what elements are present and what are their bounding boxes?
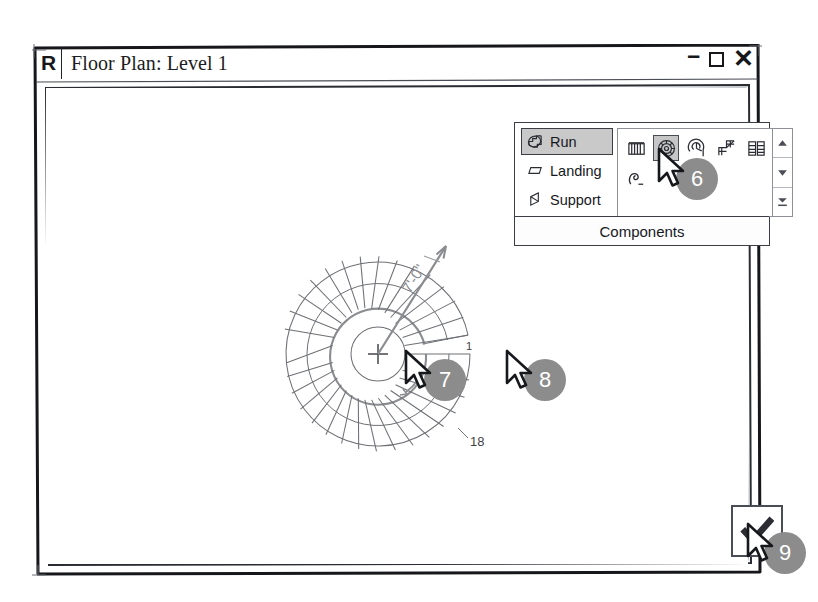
scroll-up-icon bbox=[776, 137, 789, 150]
center-ends-spiral-icon bbox=[686, 138, 707, 159]
gallery-show-more-button[interactable] bbox=[773, 188, 792, 216]
first-tread-label: 1 bbox=[466, 340, 472, 352]
stringer-support-icon bbox=[526, 191, 545, 208]
stair-run-icon bbox=[526, 133, 545, 150]
gallery-scrollbar[interactable] bbox=[773, 128, 793, 217]
gallery-item-l-shape-winder[interactable] bbox=[713, 135, 739, 161]
gallery-item-create-sketch-run[interactable] bbox=[623, 165, 649, 191]
ribbon-body: Run Landing bbox=[515, 123, 769, 217]
app-logo-icon[interactable]: R bbox=[36, 47, 62, 79]
ribbon-button-landing-label: Landing bbox=[550, 163, 602, 179]
gallery-item-full-step-spiral[interactable] bbox=[653, 135, 679, 161]
ribbon-button-run-label: Run bbox=[550, 134, 577, 150]
minimize-icon[interactable]: – bbox=[687, 44, 700, 67]
create-sketch-run-icon bbox=[626, 168, 647, 189]
window-controls: – ✕ bbox=[687, 47, 754, 72]
components-ribbon-panel: Run Landing bbox=[514, 122, 770, 246]
u-shape-winder-icon bbox=[746, 138, 767, 159]
ribbon-button-support[interactable]: Support bbox=[521, 186, 613, 213]
callout-badge-8: 8 bbox=[524, 359, 566, 401]
maximize-icon[interactable] bbox=[709, 52, 724, 67]
l-shape-winder-icon bbox=[716, 138, 737, 159]
scroll-down-icon bbox=[776, 166, 789, 179]
title-bar: R Floor Plan: Level 1 – ✕ bbox=[36, 46, 758, 80]
ribbon-button-run[interactable]: Run bbox=[521, 128, 613, 155]
last-tread-label: 18 bbox=[470, 434, 484, 449]
close-icon[interactable]: ✕ bbox=[733, 46, 754, 71]
window-title: Floor Plan: Level 1 bbox=[62, 52, 228, 75]
ribbon-panel-title: Components bbox=[515, 216, 769, 245]
gallery-scroll-up-button[interactable] bbox=[773, 129, 792, 158]
ribbon-left-buttons: Run Landing bbox=[521, 128, 613, 217]
full-step-spiral-icon bbox=[656, 138, 677, 159]
ribbon-button-landing[interactable]: Landing bbox=[521, 157, 613, 184]
callout-badge-9: 9 bbox=[764, 532, 806, 574]
ribbon-button-support-label: Support bbox=[550, 192, 601, 208]
gallery-scroll-down-button[interactable] bbox=[773, 158, 792, 187]
gallery-item-u-shape-winder[interactable] bbox=[743, 135, 769, 161]
spiral-stair-drawing[interactable]: 7'-0" 1 18 bbox=[282, 232, 532, 477]
last-tread-leader bbox=[458, 428, 468, 438]
callout-badge-6: 6 bbox=[676, 158, 718, 200]
landing-slab-icon bbox=[526, 162, 545, 179]
callout-badge-7: 7 bbox=[424, 359, 466, 401]
gallery-item-straight-run[interactable] bbox=[623, 135, 649, 161]
straight-run-icon bbox=[626, 138, 647, 159]
show-more-icon bbox=[776, 195, 789, 208]
screenshot-root: R Floor Plan: Level 1 – ✕ bbox=[0, 0, 818, 602]
radius-dimension-label: 7'-0" bbox=[398, 261, 428, 295]
